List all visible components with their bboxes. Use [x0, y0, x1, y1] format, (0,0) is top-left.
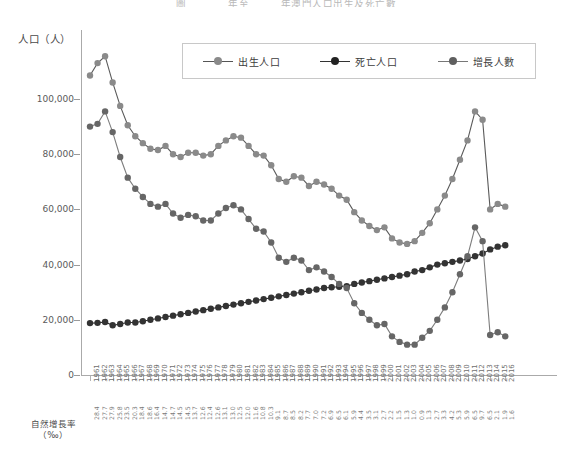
data-point: [208, 306, 214, 312]
data-point: [109, 322, 115, 328]
data-point: [487, 332, 493, 338]
rate-tick-label: 6.5: [335, 410, 342, 420]
data-point: [411, 238, 417, 244]
data-point: [291, 173, 297, 179]
data-point: [268, 239, 274, 245]
data-point: [94, 121, 100, 127]
y-tick-mark: [74, 209, 80, 210]
x-tick-label: 1965: [123, 364, 131, 382]
data-point: [238, 134, 244, 140]
x-tick-label: 1970: [161, 364, 169, 382]
data-point: [313, 179, 319, 185]
data-point: [117, 154, 123, 160]
y-tick-mark: [74, 154, 80, 155]
data-point: [253, 297, 259, 303]
data-point: [351, 300, 357, 306]
legend-item-growth[interactable]: 增長人數: [438, 54, 515, 69]
x-tick-label: 2014: [493, 364, 501, 382]
data-point: [502, 242, 508, 248]
x-tick-label: 2010: [463, 364, 471, 382]
data-point: [208, 151, 214, 157]
rate-tick-label: 28.4: [93, 406, 100, 420]
rate-tick-label: 14.7: [169, 406, 176, 420]
rate-tick-label: 13.0: [229, 406, 236, 420]
data-point: [389, 274, 395, 280]
data-point: [479, 238, 485, 244]
data-point: [215, 210, 221, 216]
data-point: [94, 60, 100, 66]
chart-legend: 出生人口 死亡人口 增長人數: [182, 43, 536, 79]
data-point: [200, 217, 206, 223]
legend-item-deaths[interactable]: 死亡人口: [320, 54, 397, 69]
data-point: [268, 162, 274, 168]
data-point: [125, 319, 131, 325]
rate-tick-label: 6.5: [486, 410, 493, 420]
x-tick-label: 1963: [108, 364, 116, 382]
data-point: [162, 314, 168, 320]
data-point: [344, 285, 350, 291]
data-point: [170, 210, 176, 216]
data-point: [306, 288, 312, 294]
x-tick-label: 1974: [191, 364, 199, 382]
data-point: [306, 267, 312, 273]
data-point: [381, 321, 387, 327]
data-point: [117, 103, 123, 109]
data-point: [449, 259, 455, 265]
rate-tick-label: 3.1: [372, 410, 379, 420]
data-point: [193, 150, 199, 156]
data-point: [162, 143, 168, 149]
data-point: [442, 192, 448, 198]
rate-tick-label: 10.3: [267, 406, 274, 420]
series-deaths: [87, 242, 509, 328]
rate-tick-label: 25.8: [116, 406, 123, 420]
y-tick-label: 60,000: [14, 204, 74, 214]
data-point: [260, 152, 266, 158]
data-point: [336, 281, 342, 287]
data-point: [381, 275, 387, 281]
data-point: [404, 341, 410, 347]
y-tick-label: 20,000: [14, 315, 74, 325]
data-point: [396, 239, 402, 245]
data-point: [268, 295, 274, 301]
data-point: [449, 289, 455, 295]
data-point: [177, 154, 183, 160]
data-point: [487, 246, 493, 252]
data-point: [464, 253, 470, 259]
data-point: [155, 203, 161, 209]
data-point: [457, 257, 463, 263]
rate-tick-label: 7.7: [304, 410, 311, 420]
rate-tick-label: 8.5: [289, 410, 296, 420]
rate-tick-label: 14.5: [184, 406, 191, 420]
rate-axis-title: 自然增長率 （‰）: [22, 419, 84, 441]
data-point: [404, 241, 410, 247]
data-point: [427, 328, 433, 334]
x-tick-label: 1972: [176, 364, 184, 382]
x-tick-label: 2005: [425, 364, 433, 382]
rate-tick-label: 4.4: [357, 410, 364, 420]
data-point: [321, 268, 327, 274]
data-point: [253, 226, 259, 232]
x-tick-label: 1983: [259, 364, 267, 382]
rate-tick-label: 1.0: [410, 410, 417, 420]
x-tick-label: 1981: [244, 364, 252, 382]
plot-area: [82, 30, 555, 375]
rate-tick-label: 4.2: [448, 410, 455, 420]
rate-tick-label: 2.1: [493, 410, 500, 420]
data-point: [351, 209, 357, 215]
rate-tick-label: 1.3: [425, 410, 432, 420]
x-tick-label: 1985: [274, 364, 282, 382]
data-point: [472, 108, 478, 114]
data-point: [479, 250, 485, 256]
data-point: [185, 310, 191, 316]
data-point: [102, 53, 108, 59]
rate-tick-label: 27.7: [101, 406, 108, 420]
data-point: [359, 217, 365, 223]
x-tick-label: 2001: [395, 364, 403, 382]
legend-item-births[interactable]: 出生人口: [203, 54, 280, 69]
legend-marker-births-icon: [203, 56, 233, 67]
x-tick-mark: [90, 376, 91, 381]
data-point: [457, 271, 463, 277]
data-point: [344, 197, 350, 203]
rate-tick-label: 8.2: [297, 410, 304, 420]
rate-tick-label: 7.0: [312, 410, 319, 420]
